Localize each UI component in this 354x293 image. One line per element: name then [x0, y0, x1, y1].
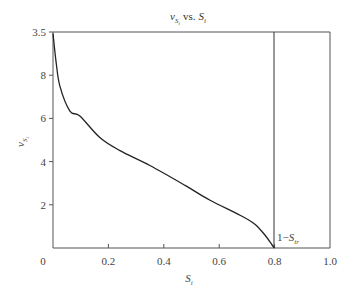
y-axis-ticks: 24683.5 [32, 26, 53, 211]
x-axis-label: Si [185, 272, 193, 287]
x-axis-ticks: 00.20.40.60.81.0 [40, 244, 337, 267]
y-tick-label: 8 [41, 69, 47, 81]
x-tick-label: 0 [40, 255, 46, 267]
x-tick-label: 0.8 [268, 255, 282, 267]
x-tick-label: 0.2 [102, 255, 116, 267]
y-tick-label: 4 [41, 156, 47, 168]
x-tick-label: 0.4 [157, 255, 171, 267]
y-tick-label: 6 [41, 112, 47, 124]
annotation-1-minus-sir: 1−Sir [277, 231, 299, 246]
plot-frame [53, 32, 330, 248]
chart: vSivs.Si 00.20.40.60.81.0 24683.5 1−Sir … [0, 0, 354, 293]
chart-title: vSivs.Si [170, 10, 206, 26]
x-tick-label: 1.0 [323, 255, 337, 267]
y-axis-label: vSi [14, 137, 30, 147]
y-tick-label: 3.5 [32, 26, 46, 38]
x-tick-label: 0.6 [212, 255, 226, 267]
y-tick-label: 2 [41, 199, 47, 211]
data-line [53, 34, 275, 249]
